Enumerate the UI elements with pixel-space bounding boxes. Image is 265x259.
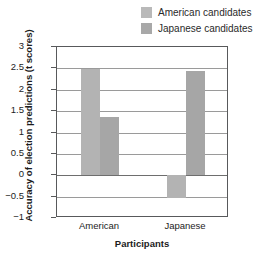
y-tick-mark <box>51 132 56 133</box>
plot-area <box>56 46 228 217</box>
x-tick-label-american: American <box>56 220 142 231</box>
y-tick-label: 1.5 <box>0 105 24 115</box>
y-tick-label: 0 <box>0 169 24 179</box>
y-tick-mark <box>51 174 56 175</box>
x-axis-title: Participants <box>56 238 228 249</box>
gridline <box>57 197 227 198</box>
y-tick-mark <box>51 217 56 218</box>
y-tick-label: −1 <box>0 212 24 222</box>
x-tick-label-japanese: Japanese <box>142 220 228 231</box>
y-tick-mark <box>51 110 56 111</box>
legend-item-japanese-candidates: Japanese candidates <box>141 21 265 36</box>
y-tick-mark <box>51 89 56 90</box>
y-tick-mark <box>51 46 56 47</box>
y-tick-label: 1 <box>0 127 24 137</box>
y-tick-mark <box>51 67 56 68</box>
y-tick-label: 2 <box>0 84 24 94</box>
legend-swatch-japanese-candidates <box>141 23 152 34</box>
legend-label-american-candidates: American candidates <box>158 7 251 18</box>
y-tick-mark <box>51 196 56 197</box>
y-axis-title: Accuracy of election predictions (t scor… <box>23 26 34 226</box>
bar-american-american <box>81 69 100 175</box>
chart-figure: American candidates Japanese candidates … <box>0 0 265 259</box>
bar-japanese-japanese <box>186 71 205 175</box>
legend-swatch-american-candidates <box>141 7 152 18</box>
legend-label-japanese-candidates: Japanese candidates <box>158 23 253 34</box>
y-tick-label: −0.5 <box>0 191 24 201</box>
y-tick-mark <box>51 153 56 154</box>
legend-item-american-candidates: American candidates <box>141 5 265 20</box>
y-tick-label: 2.5 <box>0 62 24 72</box>
y-tick-label: 3 <box>0 41 24 51</box>
y-tick-label: 0.5 <box>0 148 24 158</box>
bar-japanese-american <box>167 175 186 198</box>
bar-american-japanese <box>100 117 119 176</box>
chart-legend: American candidates Japanese candidates <box>141 5 265 37</box>
